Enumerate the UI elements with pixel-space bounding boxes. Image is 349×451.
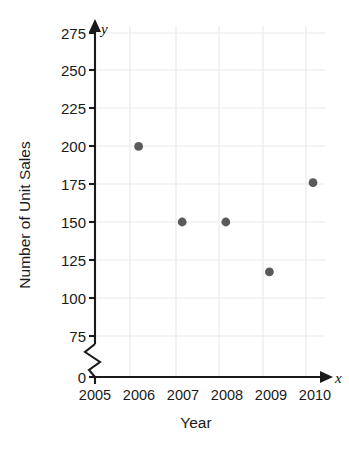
y-axis-title: Number of Unit Sales: [16, 141, 33, 289]
ytick-label-0: 0: [78, 369, 86, 386]
xtick-label-2008: 2008: [211, 387, 243, 403]
ytick-label-100: 100: [61, 290, 86, 307]
xtick-label-2009: 2009: [255, 387, 287, 403]
ytick-label-125: 125: [61, 252, 86, 269]
x-axis-symbol: x: [334, 370, 342, 386]
ytick-label-75: 75: [69, 328, 86, 345]
data-points: [134, 142, 317, 276]
xtick-label-2007: 2007: [167, 387, 199, 403]
xtick-label-2005: 2005: [79, 387, 111, 403]
ytick-label-225: 225: [61, 100, 86, 117]
ytick-label-250: 250: [61, 62, 86, 79]
xtick-label-2010: 2010: [299, 387, 331, 403]
ytick-label-150: 150: [61, 214, 86, 231]
scatter-chart: 275 250 225 200 175 150 125 100 75 0 200…: [0, 0, 349, 451]
data-point-2008[interactable]: [221, 218, 230, 227]
data-point-2010[interactable]: [309, 178, 318, 187]
vertical-gridlines: [130, 26, 306, 377]
y-axis: [85, 19, 101, 377]
x-axis-title: Year: [180, 414, 211, 431]
chart-canvas: 275 250 225 200 175 150 125 100 75 0 200…: [0, 0, 349, 451]
ytick-label-175: 175: [61, 176, 86, 193]
y-axis-arrowhead: [89, 19, 101, 32]
ytick-label-275: 275: [61, 25, 86, 42]
y-axis-symbol: y: [99, 21, 108, 37]
x-axis-arrowhead: [320, 371, 333, 383]
data-point-2006[interactable]: [134, 142, 143, 151]
data-point-2009[interactable]: [265, 268, 274, 277]
x-axis-tick-labels: 2005 2006 2007 2008 2009 2010: [79, 387, 331, 403]
y-axis-tick-labels: 275 250 225 200 175 150 125 100 75 0: [61, 25, 86, 386]
y-axis-break-symbol: [85, 344, 100, 377]
ytick-label-200: 200: [61, 138, 86, 155]
xtick-label-2006: 2006: [123, 387, 155, 403]
data-point-2007[interactable]: [178, 218, 187, 227]
